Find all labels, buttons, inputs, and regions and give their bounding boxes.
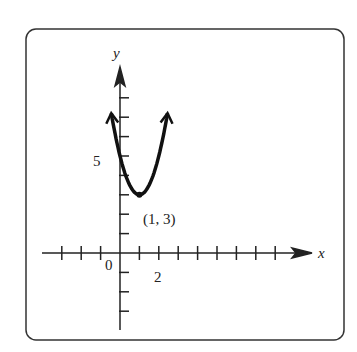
vertex-label: (1, 3) <box>143 211 176 228</box>
frame-border <box>26 29 344 340</box>
x-tick-label-2: 2 <box>154 269 162 285</box>
axes <box>42 67 312 330</box>
chart-figure: y x 0 2 5 (1, 3) <box>0 0 357 352</box>
y-axis-label: y <box>111 45 120 61</box>
x-axis-label: x <box>317 245 325 261</box>
vertex-point <box>136 192 142 198</box>
origin-label: 0 <box>105 257 113 273</box>
parabola-curve <box>106 113 172 198</box>
y-tick-label-5: 5 <box>93 153 101 169</box>
